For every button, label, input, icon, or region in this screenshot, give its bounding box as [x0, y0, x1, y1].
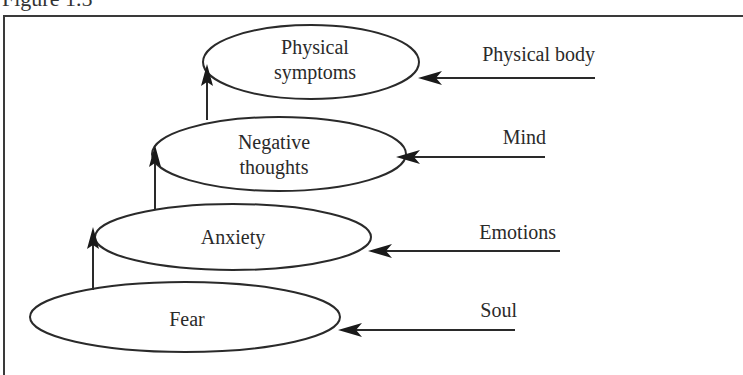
node-label-physical-symptoms: Physical symptoms: [274, 35, 356, 85]
level-arrow-mind: [396, 150, 545, 164]
node-label-negative-thoughts-line2: thoughts: [238, 155, 310, 180]
level-arrow-physical-body: [418, 71, 595, 85]
node-label-negative-thoughts: Negative thoughts: [238, 130, 310, 180]
node-label-negative-thoughts-line1: Negative: [238, 130, 310, 155]
flow-arrow-anxiety-to-negative-thoughts: [149, 145, 161, 210]
node-label-fear: Fear: [169, 307, 205, 332]
flow-arrow-fear-to-anxiety: [87, 227, 99, 290]
level-arrow-emotions: [368, 244, 560, 258]
level-arrow-soul: [338, 323, 515, 337]
level-label-physical-body: Physical body: [482, 43, 595, 65]
level-label-mind: Mind: [503, 126, 546, 148]
node-label-fear-line1: Fear: [169, 307, 205, 332]
node-label-anxiety-line1: Anxiety: [201, 225, 265, 250]
node-label-physical-symptoms-line2: symptoms: [274, 60, 356, 85]
level-label-soul: Soul: [480, 299, 517, 321]
flow-arrow-negative-thoughts-to-physical-symptoms: [201, 64, 213, 120]
node-label-physical-symptoms-line1: Physical: [274, 35, 356, 60]
level-label-emotions: Emotions: [479, 221, 556, 243]
node-label-anxiety: Anxiety: [201, 225, 265, 250]
